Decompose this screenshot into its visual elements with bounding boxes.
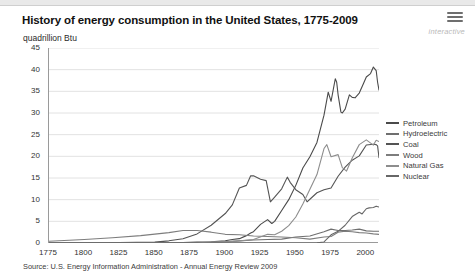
- chart-legend: PetroleumHydroelectricCoalWoodNatural Ga…: [386, 118, 474, 182]
- x-axis-tick-label: 1975: [310, 248, 350, 257]
- legend-swatch-icon: [386, 165, 399, 167]
- y-axis-tick-label: 40: [6, 65, 40, 74]
- y-axis-tick-label: 45: [6, 43, 40, 52]
- legend-item-label: Coal: [403, 140, 419, 149]
- y-axis-tick-label: 25: [6, 130, 40, 139]
- y-axis-tick-label: 10: [6, 195, 40, 204]
- legend-swatch-icon: [386, 122, 399, 124]
- y-axis-tick-label: 20: [6, 151, 40, 160]
- x-axis-tick-label: 1925: [240, 248, 280, 257]
- x-axis-tick-label: 1775: [28, 248, 68, 257]
- plot-area: [48, 48, 378, 243]
- x-axis-tick-label: 1875: [169, 248, 209, 257]
- legend-swatch-icon: [386, 143, 399, 145]
- legend-swatch-icon: [386, 133, 399, 135]
- interactive-label: interactive: [395, 27, 465, 36]
- interactive-badge[interactable]: interactive: [395, 8, 465, 38]
- legend-item-wood[interactable]: Wood: [386, 150, 474, 161]
- series-line-petroleum: [49, 67, 379, 243]
- legend-item-label: Nuclear: [403, 172, 429, 181]
- x-axis-tick-label: 1825: [99, 248, 139, 257]
- series-line-nuclear: [49, 206, 379, 243]
- legend-swatch-icon: [386, 154, 399, 156]
- y-axis-tick-label: 5: [6, 216, 40, 225]
- legend-item-coal[interactable]: Coal: [386, 139, 474, 150]
- y-axis-tick-label: 0: [6, 238, 40, 247]
- legend-item-nuclear[interactable]: Nuclear: [386, 171, 474, 182]
- legend-item-label: Petroleum: [403, 119, 438, 128]
- x-axis-tick-label: 1900: [204, 248, 244, 257]
- legend-swatch-icon: [386, 175, 399, 177]
- y-axis-tick-label: 15: [6, 173, 40, 182]
- y-axis-tick-label: 30: [6, 108, 40, 117]
- chart-units-label: quadrillion Btu: [23, 33, 77, 43]
- x-axis-tick-label: 2000: [345, 248, 385, 257]
- chart-canvas: [49, 48, 379, 243]
- y-axis-tick-label: 35: [6, 86, 40, 95]
- hamburger-icon[interactable]: [447, 12, 463, 22]
- source-note: Source: U.S. Energy Information Administ…: [23, 262, 277, 271]
- legend-item-label: Natural Gas: [403, 161, 444, 170]
- x-axis-tick-label: 1850: [134, 248, 174, 257]
- chart-title: History of energy consumption in the Uni…: [22, 14, 382, 26]
- legend-item-hydroelectric[interactable]: Hydroelectric: [386, 129, 474, 140]
- series-line-coal: [49, 144, 379, 243]
- legend-item-label: Wood: [403, 151, 423, 160]
- legend-item-label: Hydroelectric: [403, 129, 447, 138]
- legend-item-petroleum[interactable]: Petroleum: [386, 118, 474, 129]
- x-axis-tick-label: 1950: [275, 248, 315, 257]
- top-chrome-bar: [0, 0, 475, 6]
- x-axis-tick-label: 1800: [63, 248, 103, 257]
- series-line-natural-gas: [49, 140, 379, 243]
- legend-item-natural-gas[interactable]: Natural Gas: [386, 160, 474, 171]
